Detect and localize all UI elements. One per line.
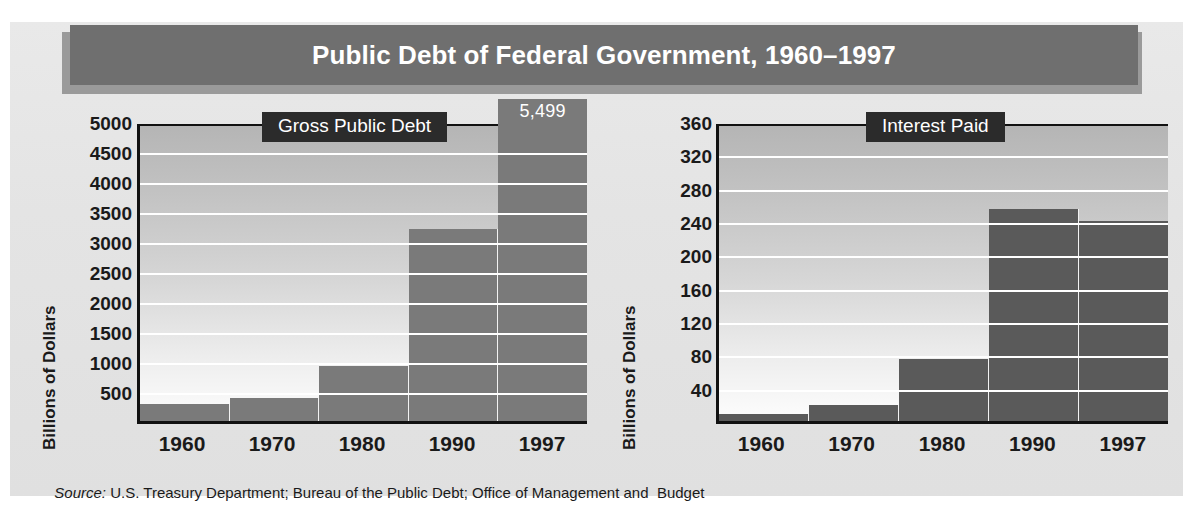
bar-1997[interactable]: 5,499 [498, 99, 587, 421]
gridline [140, 363, 587, 365]
bar-1960[interactable] [719, 414, 809, 422]
chart-interest-paid: Billions of Dollars 36032028024020016012… [598, 100, 1178, 480]
gridline [719, 390, 1168, 392]
x-label-1970: 1970 [806, 432, 896, 462]
bar-group-left: 5,499 [140, 100, 587, 421]
y-tick-120: 120 [680, 313, 712, 335]
chart-title-bar: Public Debt of Federal Government, 1960–… [70, 25, 1138, 85]
bar-group-right [719, 100, 1168, 421]
y-tick-3500: 3500 [90, 203, 132, 225]
y-tick-3000: 3000 [90, 233, 132, 255]
y-tick-40: 40 [691, 380, 712, 402]
series-label-gross-public-debt: Gross Public Debt [262, 112, 447, 142]
gridline [719, 323, 1168, 325]
gridline [140, 333, 587, 335]
y-tick-280: 280 [680, 180, 712, 202]
plot-area-right [716, 124, 1168, 424]
x-label-1960: 1960 [137, 432, 227, 462]
y-tick-240: 240 [680, 213, 712, 235]
gridline [719, 190, 1168, 192]
x-label-1997: 1997 [1078, 432, 1168, 462]
source-text: U.S. Treasury Department; Bureau of the … [106, 484, 704, 501]
gridline [719, 156, 1168, 158]
x-label-1980: 1980 [897, 432, 987, 462]
gridline [140, 213, 587, 215]
x-label-1990: 1990 [407, 432, 497, 462]
y-tick-4500: 4500 [90, 143, 132, 165]
gridline [140, 243, 587, 245]
bar-1960[interactable] [140, 404, 230, 421]
x-axis-labels-left: 19601970198019901997 [137, 432, 587, 462]
x-label-1960: 1960 [716, 432, 806, 462]
y-tick-160: 160 [680, 280, 712, 302]
gridline [140, 393, 587, 395]
gridline [140, 303, 587, 305]
source-note: Source: U.S. Treasury Department; Bureau… [46, 467, 704, 501]
chart-gross-public-debt: Billions of Dollars 50004500400035003000… [14, 100, 594, 480]
y-axis-label-left: Billions of Dollars [40, 428, 60, 450]
gridline [140, 153, 587, 155]
y-tick-320: 320 [680, 146, 712, 168]
gridline [719, 356, 1168, 358]
bar-1970[interactable] [809, 405, 899, 421]
y-tick-500: 500 [100, 383, 132, 405]
y-axis-label-right: Billions of Dollars [620, 428, 640, 450]
source-lead: Source: [54, 484, 106, 501]
page-title: Public Debt of Federal Government, 1960–… [312, 40, 896, 71]
series-label-interest-paid: Interest Paid [866, 112, 1005, 142]
plot-area-left: 5,499 [137, 124, 587, 424]
y-tick-200: 200 [680, 246, 712, 268]
x-label-1980: 1980 [317, 432, 407, 462]
y-tick-1500: 1500 [90, 323, 132, 345]
y-axis-ticks-right: 3603202802402001601208040 [642, 124, 712, 424]
y-tick-2000: 2000 [90, 293, 132, 315]
y-tick-5000: 5000 [90, 113, 132, 135]
bar-value-1997: 5,499 [498, 101, 587, 122]
gridline [719, 223, 1168, 225]
y-tick-4000: 4000 [90, 173, 132, 195]
x-axis-labels-right: 19601970198019901997 [716, 432, 1168, 462]
x-label-1990: 1990 [987, 432, 1077, 462]
y-tick-1000: 1000 [90, 353, 132, 375]
gridline [140, 273, 587, 275]
y-tick-2500: 2500 [90, 263, 132, 285]
y-axis-ticks-left: 500045004000350030002500200015001000500 [62, 124, 132, 424]
bar-1970[interactable] [230, 398, 320, 421]
x-label-1997: 1997 [497, 432, 587, 462]
y-tick-80: 80 [691, 346, 712, 368]
gridline [140, 183, 587, 185]
x-label-1970: 1970 [227, 432, 317, 462]
gridline [719, 290, 1168, 292]
gridline [719, 256, 1168, 258]
y-tick-360: 360 [680, 113, 712, 135]
